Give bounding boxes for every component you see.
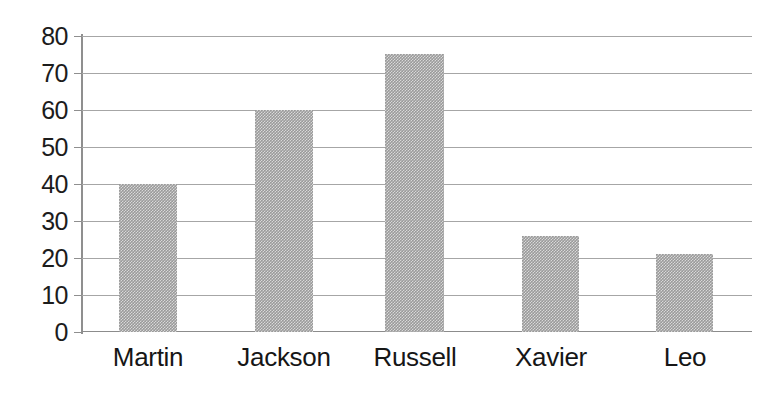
y-tick-label-80: 80 — [8, 24, 68, 49]
y-tick-mark-60 — [74, 110, 82, 111]
y-tick-mark-70 — [74, 73, 82, 74]
x-axis-category-labels: Martin Jackson Russell Xavier Leo — [82, 341, 752, 381]
bar-martin — [119, 184, 177, 332]
y-tick-mark-20 — [74, 258, 82, 259]
y-tick-mark-10 — [74, 295, 82, 296]
gridline-80 — [82, 36, 752, 37]
y-tick-label-10: 10 — [8, 283, 68, 308]
x-label-russell: Russell — [355, 341, 475, 373]
y-tick-label-50: 50 — [8, 135, 68, 160]
x-label-martin: Martin — [88, 341, 208, 373]
x-label-xavier: Xavier — [491, 341, 611, 373]
y-tick-mark-80 — [74, 36, 82, 37]
y-tick-label-30: 30 — [8, 209, 68, 234]
y-tick-label-60: 60 — [8, 98, 68, 123]
bar-jackson — [255, 110, 313, 332]
bar-chart-figure: 80 70 60 50 40 30 20 10 0 Martin — [0, 0, 771, 396]
y-tick-mark-30 — [74, 221, 82, 222]
x-label-leo: Leo — [625, 341, 745, 373]
y-tick-mark-50 — [74, 147, 82, 148]
y-tick-label-70: 70 — [8, 61, 68, 86]
y-tick-label-20: 20 — [8, 246, 68, 271]
y-tick-label-0: 0 — [8, 320, 68, 345]
plot-area — [82, 36, 752, 332]
y-tick-mark-0 — [74, 332, 82, 333]
bar-xavier — [522, 236, 579, 332]
bar-russell — [385, 54, 444, 332]
x-label-jackson: Jackson — [224, 341, 344, 373]
y-tick-mark-40 — [74, 184, 82, 185]
bar-leo — [656, 254, 713, 332]
y-tick-label-40: 40 — [8, 172, 68, 197]
